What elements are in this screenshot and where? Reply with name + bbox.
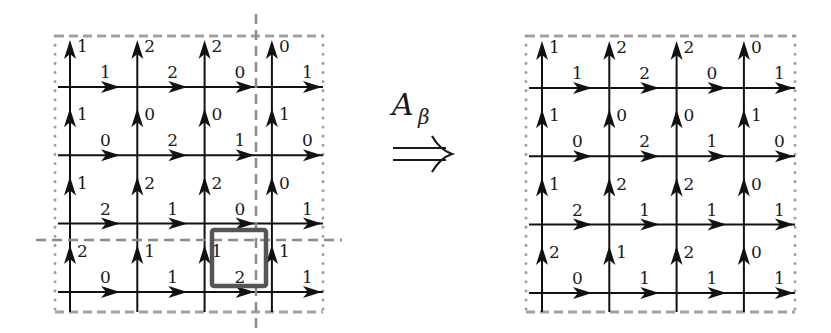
lattice-site: 22 [603, 37, 659, 94]
horizontal-edge-label: 1 [707, 131, 718, 151]
vertical-edge-label: 2 [212, 173, 223, 193]
horizontal-edge-label: 1 [774, 200, 785, 220]
vertical-edge-label: 0 [684, 105, 695, 125]
vertical-edge-label: 0 [144, 104, 155, 124]
horizontal-edge-label: 1 [707, 268, 718, 288]
lattice-site: 01 [671, 105, 727, 162]
lattice-site: 21 [603, 174, 659, 231]
lattice-before: 11222001100201101221200120111211 [36, 14, 342, 332]
horizontal-edge-label: 2 [167, 62, 178, 82]
lattice-site: 20 [199, 36, 255, 93]
horizontal-edge-label: 1 [302, 62, 313, 82]
horizontal-edge-label: 2 [639, 63, 650, 83]
lattice-site: 12 [64, 173, 120, 230]
vertical-edge-label: 1 [549, 105, 560, 125]
vertical-edge-label: 0 [751, 242, 762, 262]
lattice-site: 12 [199, 241, 255, 298]
vertical-edge-label: 0 [279, 36, 290, 56]
horizontal-edge-label: 0 [235, 62, 246, 82]
lattice-site: 01 [738, 174, 794, 231]
horizontal-edge-label: 0 [235, 199, 246, 219]
vertical-edge-label: 1 [77, 36, 88, 56]
lattice-site: 21 [131, 173, 187, 230]
horizontal-edge-label: 0 [707, 63, 718, 83]
vertical-edge-label: 1 [77, 104, 88, 124]
horizontal-edge-label: 2 [572, 200, 583, 220]
horizontal-edge-label: 1 [100, 62, 111, 82]
lattice-site: 01 [738, 242, 794, 299]
lattice-site: 22 [131, 36, 187, 93]
horizontal-edge-label: 1 [235, 130, 246, 150]
lattice-site: 20 [671, 37, 727, 94]
vertical-edge-label: 2 [77, 241, 88, 261]
horizontal-edge-label: 1 [774, 268, 785, 288]
horizontal-edge-label: 0 [572, 268, 583, 288]
vertical-edge-label: 2 [212, 36, 223, 56]
horizontal-edge-label: 2 [639, 131, 650, 151]
operator-subscript: β [417, 105, 430, 129]
vertical-edge-label: 0 [751, 37, 762, 57]
lattice-site: 20 [536, 242, 592, 299]
vertical-edge-label: 1 [144, 241, 155, 261]
lattice-site: 21 [671, 174, 727, 231]
horizontal-edge-label: 0 [100, 267, 111, 287]
vertical-edge-label: 1 [279, 241, 290, 261]
lattice-site: 11 [131, 241, 187, 298]
lattice-site: 01 [738, 37, 794, 94]
vertical-edge-label: 1 [549, 37, 560, 57]
operator-a-beta: A β [389, 87, 452, 172]
horizontal-edge-label: 0 [572, 131, 583, 151]
lattice-site: 11 [603, 242, 659, 299]
lattice-site: 10 [536, 105, 592, 162]
horizontal-edge-label: 1 [167, 267, 178, 287]
horizontal-edge-label: 1 [572, 63, 583, 83]
horizontal-edge-label: 2 [100, 199, 111, 219]
horizontal-edge-label: 0 [774, 131, 785, 151]
vertical-edge-label: 2 [144, 36, 155, 56]
lattice-site: 02 [131, 104, 187, 161]
horizontal-edge-label: 1 [302, 199, 313, 219]
lattice-site: 02 [603, 105, 659, 162]
vertical-edge-label: 0 [616, 105, 627, 125]
lattice-site: 21 [671, 242, 727, 299]
vertical-edge-label: 0 [751, 174, 762, 194]
lattice-site: 11 [64, 36, 120, 93]
lattice-site: 01 [266, 173, 322, 230]
vertical-edge-label: 2 [549, 242, 560, 262]
horizontal-edge-label: 1 [707, 200, 718, 220]
lattice-site: 10 [64, 104, 120, 161]
vertical-edge-label: 0 [279, 173, 290, 193]
lattice-site: 10 [266, 104, 322, 161]
vertical-edge-label: 0 [212, 104, 223, 124]
lattice-after: 11222001100201101221210120112101 [526, 36, 795, 312]
vertical-edge-label: 2 [684, 174, 695, 194]
vertical-edge-label: 2 [684, 37, 695, 57]
vertical-edge-label: 1 [751, 105, 762, 125]
vertical-edge-label: 2 [616, 37, 627, 57]
implies-arrow-icon [393, 136, 452, 172]
vertical-edge-label: 1 [77, 173, 88, 193]
horizontal-edge-label: 1 [774, 63, 785, 83]
horizontal-edge-label: 0 [302, 130, 313, 150]
vertical-edge-label: 1 [279, 104, 290, 124]
horizontal-edge-label: 2 [167, 130, 178, 150]
horizontal-edge-label: 0 [100, 130, 111, 150]
horizontal-edge-label: 1 [639, 268, 650, 288]
lattice-transformation-diagram: 11222001100201101221200120111211 A β 112… [0, 0, 831, 333]
lattice-site: 20 [199, 173, 255, 230]
horizontal-edge-label: 1 [167, 199, 178, 219]
operator-symbol: A [389, 87, 414, 122]
vertical-edge-label: 1 [549, 174, 560, 194]
lattice-site: 11 [536, 37, 592, 94]
lattice-site: 01 [266, 36, 322, 93]
vertical-edge-label: 2 [616, 174, 627, 194]
vertical-edge-label: 2 [684, 242, 695, 262]
horizontal-edge-label: 1 [302, 267, 313, 287]
lattice-site: 12 [536, 174, 592, 231]
lattice-site: 01 [199, 104, 255, 161]
vertical-edge-label: 2 [144, 173, 155, 193]
lattice-site: 10 [738, 105, 794, 162]
vertical-edge-label: 1 [616, 242, 627, 262]
horizontal-edge-label: 1 [639, 200, 650, 220]
lattice-site: 11 [266, 241, 322, 298]
